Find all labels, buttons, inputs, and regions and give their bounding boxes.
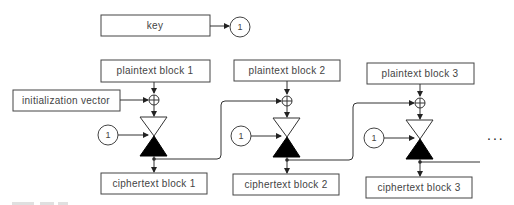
xor-icon — [149, 95, 159, 105]
ciphertext-label-1: ciphertext block 1 — [112, 178, 195, 189]
encrypt-hourglass-icon — [406, 120, 433, 159]
iv-label: initialization vector — [22, 95, 110, 106]
key-ref-label-3: 1 — [371, 133, 376, 143]
chain-connector-2 — [287, 103, 414, 160]
iv-box: initialization vector — [13, 90, 120, 111]
block-1: plaintext block 1 1 ciphertext block 1 — [98, 60, 210, 194]
key-ref-circle: 1 — [230, 17, 250, 37]
key-ref-label-2: 1 — [238, 131, 243, 141]
plaintext-label-1: plaintext block 1 — [117, 65, 194, 76]
key-ref-label: 1 — [237, 22, 242, 32]
continuation-ellipsis: ... — [487, 127, 505, 143]
ciphertext-label-2: ciphertext block 2 — [244, 179, 327, 190]
plaintext-label-2: plaintext block 2 — [249, 65, 326, 76]
block-2: plaintext block 2 1 ciphertext block 2 — [231, 60, 340, 195]
xor-icon — [415, 98, 425, 108]
chain-connector-1 — [154, 101, 281, 159]
cbc-diagram: key 1 initialization vector plaintext bl… — [0, 0, 514, 205]
ciphertext-label-3: ciphertext block 3 — [377, 182, 460, 193]
encrypt-hourglass-icon — [273, 118, 300, 157]
xor-icon — [282, 96, 292, 106]
key-ref-label-1: 1 — [105, 130, 110, 140]
encrypt-hourglass-icon — [140, 117, 167, 156]
block-3: plaintext block 3 1 ciphertext block 3 — [364, 63, 474, 198]
plaintext-label-3: plaintext block 3 — [382, 68, 459, 79]
key-box: key — [101, 15, 210, 36]
key-label: key — [147, 20, 163, 31]
caption-clipped — [12, 202, 68, 205]
